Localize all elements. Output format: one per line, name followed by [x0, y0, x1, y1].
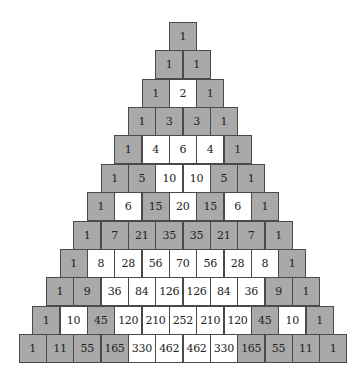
triangle-cell: 1 [60, 249, 88, 278]
triangle-cell: 10 [278, 306, 306, 335]
triangle-cell: 7 [237, 221, 265, 250]
triangle-cell: 1 [142, 79, 170, 108]
triangle-cell: 20 [169, 192, 197, 221]
triangle-cell: 1 [46, 277, 74, 306]
triangle-cell: 1 [87, 192, 115, 221]
triangle-cell: 1 [114, 135, 142, 164]
triangle-cell: 210 [142, 306, 170, 335]
triangle-cell: 35 [183, 221, 211, 250]
triangle-cell: 126 [155, 277, 183, 306]
triangle-cell: 21 [128, 221, 156, 250]
triangle-cell: 1 [169, 22, 197, 51]
triangle-cell: 15 [142, 192, 170, 221]
triangle-cell: 1 [196, 79, 224, 108]
triangle-cell: 6 [224, 192, 252, 221]
triangle-cell: 1 [319, 334, 347, 363]
triangle-cell: 36 [101, 277, 129, 306]
triangle-cell: 5 [210, 164, 238, 193]
triangle-cell: 6 [169, 135, 197, 164]
triangle-cell: 10 [183, 164, 211, 193]
triangle-cell: 1 [73, 221, 101, 250]
triangle-cell: 10 [155, 164, 183, 193]
triangle-cell: 330 [128, 334, 156, 363]
triangle-cell: 330 [210, 334, 238, 363]
triangle-cell: 165 [101, 334, 129, 363]
triangle-cell: 7 [101, 221, 129, 250]
triangle-cell: 1 [306, 306, 334, 335]
triangle-cell: 35 [155, 221, 183, 250]
triangle-cell: 3 [183, 107, 211, 136]
triangle-cell: 55 [73, 334, 101, 363]
triangle-cell: 120 [114, 306, 142, 335]
triangle-cell: 1 [128, 107, 156, 136]
triangle-cell: 84 [210, 277, 238, 306]
triangle-cell: 55 [265, 334, 293, 363]
triangle-cell: 4 [196, 135, 224, 164]
triangle-cell: 21 [210, 221, 238, 250]
triangle-cell: 1 [224, 135, 252, 164]
triangle-cell: 1 [32, 306, 60, 335]
pascal-triangle: 1111211331146411510105116152015611721353… [0, 0, 364, 381]
triangle-cell: 9 [265, 277, 293, 306]
triangle-cell: 8 [251, 249, 279, 278]
triangle-cell: 210 [196, 306, 224, 335]
triangle-cell: 11 [46, 334, 74, 363]
triangle-cell: 1 [292, 277, 320, 306]
triangle-cell: 56 [142, 249, 170, 278]
triangle-cell: 45 [251, 306, 279, 335]
triangle-cell: 9 [73, 277, 101, 306]
triangle-cell: 1 [19, 334, 47, 363]
triangle-cell: 28 [224, 249, 252, 278]
triangle-cell: 252 [169, 306, 197, 335]
triangle-cell: 462 [183, 334, 211, 363]
triangle-cell: 8 [87, 249, 115, 278]
triangle-cell: 1 [101, 164, 129, 193]
triangle-cell: 1 [278, 249, 306, 278]
triangle-cell: 1 [237, 164, 265, 193]
triangle-cell: 1 [210, 107, 238, 136]
triangle-cell: 1 [251, 192, 279, 221]
triangle-cell: 1 [265, 221, 293, 250]
triangle-cell: 45 [87, 306, 115, 335]
triangle-cell: 1 [155, 50, 183, 79]
triangle-cell: 10 [60, 306, 88, 335]
triangle-cell: 6 [114, 192, 142, 221]
triangle-cell: 120 [224, 306, 252, 335]
triangle-cell: 28 [114, 249, 142, 278]
triangle-cell: 1 [183, 50, 211, 79]
triangle-cell: 11 [292, 334, 320, 363]
triangle-cell: 462 [155, 334, 183, 363]
triangle-cell: 126 [183, 277, 211, 306]
triangle-cell: 165 [237, 334, 265, 363]
triangle-cell: 2 [169, 79, 197, 108]
triangle-cell: 36 [237, 277, 265, 306]
triangle-cell: 56 [196, 249, 224, 278]
triangle-cell: 15 [196, 192, 224, 221]
triangle-cell: 84 [128, 277, 156, 306]
triangle-cell: 3 [155, 107, 183, 136]
triangle-cell: 5 [128, 164, 156, 193]
triangle-cell: 4 [142, 135, 170, 164]
triangle-cell: 70 [169, 249, 197, 278]
